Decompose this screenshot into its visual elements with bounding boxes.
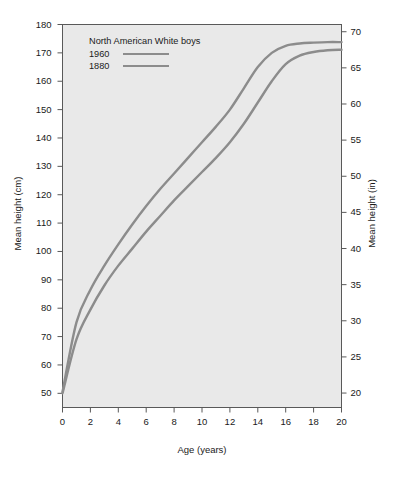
x-tick-label: 14 (246, 416, 270, 427)
y-tick-label-right: 65 (351, 62, 377, 73)
x-tick-label: 0 (51, 416, 75, 427)
y-tick-label-left: 130 (26, 160, 52, 171)
y-tick-label-left: 80 (26, 302, 52, 313)
x-axis-label: Age (years) (62, 444, 342, 455)
y-tick-label-left: 160 (26, 75, 52, 86)
y-tick-label-right: 55 (351, 134, 377, 145)
y-tick-label-right: 45 (351, 206, 377, 217)
y-tick-label-left: 90 (26, 274, 52, 285)
y-tick-label-left: 170 (26, 47, 52, 58)
x-tick-label: 12 (218, 416, 242, 427)
x-tick-label: 10 (190, 416, 214, 427)
y-tick-label-right: 50 (351, 170, 377, 181)
y-tick-label-left: 50 (26, 387, 52, 398)
y-tick-label-left: 100 (26, 245, 52, 256)
x-tick-label: 6 (134, 416, 158, 427)
y-tick-label-right: 30 (351, 315, 377, 326)
y-tick-label-right: 20 (351, 387, 377, 398)
legend-label-1960: 1960 (89, 49, 119, 59)
x-tick-label: 2 (78, 416, 102, 427)
legend-swatch-1960 (123, 53, 169, 56)
legend-title: North American White boys (89, 36, 200, 46)
legend-swatch-1880 (123, 65, 169, 68)
y-tick-label-right: 60 (351, 98, 377, 109)
y-tick-label-left: 60 (26, 359, 52, 370)
x-tick-label: 8 (162, 416, 186, 427)
y-tick-label-right: 70 (351, 26, 377, 37)
y-tick-label-right: 40 (351, 243, 377, 254)
y-tick-label-left: 150 (26, 104, 52, 115)
x-tick-label: 18 (302, 416, 326, 427)
y-tick-label-right: 25 (351, 351, 377, 362)
y-tick-label-left: 140 (26, 132, 52, 143)
plot-background (63, 25, 342, 408)
y-tick-label-left: 70 (26, 331, 52, 342)
legend-item-1960: 1960 (89, 49, 200, 59)
x-tick-label: 20 (330, 416, 354, 427)
y-axis-label-left: Mean height (cm) (12, 159, 23, 269)
y-tick-label-left: 120 (26, 189, 52, 200)
y-tick-label-left: 180 (26, 19, 52, 30)
y-tick-label-right: 35 (351, 279, 377, 290)
x-tick-label: 4 (106, 416, 130, 427)
y-tick-label-left: 110 (26, 217, 52, 228)
legend-label-1880: 1880 (89, 61, 119, 71)
chart-legend: North American White boys 1960 1880 (89, 36, 200, 73)
growth-chart-figure: Mean height (cm) Mean height (in) Age (y… (0, 0, 398, 477)
legend-item-1880: 1880 (89, 61, 200, 71)
x-tick-label: 16 (274, 416, 298, 427)
